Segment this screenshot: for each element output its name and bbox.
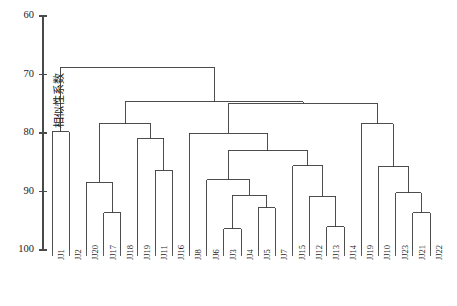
y-tick-label: 100 xyxy=(8,243,34,254)
leaf-label: JJ19 xyxy=(365,245,375,260)
leaf-label: JJ12 xyxy=(314,245,324,260)
y-tick-label: 70 xyxy=(8,68,34,79)
leaf-label: JJ6 xyxy=(211,249,221,260)
leaf-label: JJ18 xyxy=(125,245,135,260)
dendrogram-canvas xyxy=(0,0,457,306)
leaf-label: JJ2 xyxy=(73,249,83,260)
leaf-label: JJ23 xyxy=(400,245,410,260)
leaf-label: JJ19 xyxy=(142,245,152,260)
leaf-label: JJ8 xyxy=(193,249,203,260)
y-tick-label: 90 xyxy=(8,185,34,196)
leaf-label: JJ7 xyxy=(279,249,289,260)
leaf-label: JJ4 xyxy=(245,249,255,260)
leaf-label: JJ1 xyxy=(56,249,66,260)
y-tick-label: 60 xyxy=(8,9,34,20)
leaf-label: JJ17 xyxy=(108,245,118,260)
leaf-label: JJ11 xyxy=(159,245,169,260)
leaf-label: JJ14 xyxy=(348,245,358,260)
leaf-label: JJ21 xyxy=(417,245,427,260)
leaf-label: JJ20 xyxy=(90,245,100,260)
leaf-label: JJ16 xyxy=(176,245,186,260)
leaf-label: JJ22 xyxy=(434,245,444,260)
leaf-label: JJ10 xyxy=(382,245,392,260)
dendrogram-figure: 相似性系数 60708090100JJ1JJ2JJ20JJ17JJ18JJ19J… xyxy=(0,0,457,306)
leaf-label: JJ13 xyxy=(331,245,341,260)
y-tick-label: 80 xyxy=(8,126,34,137)
leaf-label: JJ5 xyxy=(262,249,272,260)
leaf-label: JJ3 xyxy=(228,249,238,260)
leaf-label: JJ15 xyxy=(297,245,307,260)
